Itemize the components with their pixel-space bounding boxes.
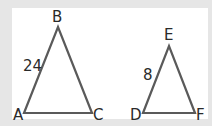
side-label-de: 8	[143, 66, 153, 84]
vertex-label-b: B	[52, 8, 62, 26]
similar-triangles-diagram: B 24 A C E 8 D F	[0, 0, 212, 126]
side-label-ab: 24	[23, 57, 42, 75]
vertex-label-a: A	[13, 106, 24, 124]
vertex-label-f: F	[196, 106, 205, 124]
vertex-label-e: E	[164, 26, 173, 44]
vertex-label-d: D	[130, 106, 142, 124]
vertex-label-c: C	[93, 106, 103, 124]
